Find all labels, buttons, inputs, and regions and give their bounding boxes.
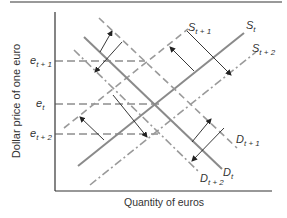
label-e-t1: et + 1 bbox=[30, 54, 52, 69]
arrow-demand-up-lower bbox=[192, 119, 211, 142]
label-S-t2: St + 2 bbox=[252, 42, 276, 57]
demand-curve-t2 bbox=[74, 50, 198, 171]
label-S-t1: St + 1 bbox=[188, 21, 211, 36]
y-axis-label: Dollar price of one euro bbox=[10, 44, 22, 158]
label-D-t: Dt bbox=[223, 166, 234, 181]
label-D-t2: Dt + 2 bbox=[200, 172, 224, 187]
exchange-rate-diagram: Dollar price of one euro Quantity of eur… bbox=[0, 0, 287, 218]
supply-curve-t2 bbox=[90, 52, 256, 185]
arrow-demand-down bbox=[95, 42, 122, 72]
arrow-supply-down bbox=[187, 31, 231, 75]
label-e-t2: et + 2 bbox=[30, 127, 52, 142]
label-S-t: St bbox=[246, 19, 256, 34]
arrow-supply-up bbox=[170, 47, 194, 71]
label-e-t: et bbox=[36, 97, 45, 112]
label-D-t1: Dt + 1 bbox=[236, 133, 260, 148]
x-axis-label: Quantity of euros bbox=[124, 196, 204, 208]
supply-curve-t bbox=[78, 33, 244, 166]
arrow-demand-up bbox=[100, 31, 112, 52]
arrow-supply-up-lower bbox=[80, 117, 104, 140]
